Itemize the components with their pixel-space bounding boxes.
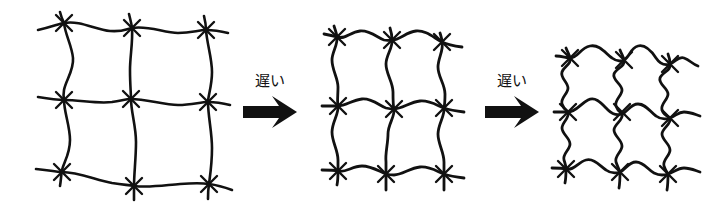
figure-canvas: 遅い: [0, 0, 728, 211]
transition-2-caption: 遅い: [497, 72, 527, 90]
transition-1-caption: 遅い: [255, 72, 285, 90]
network-relaxation-figure: 遅い: [0, 0, 728, 211]
